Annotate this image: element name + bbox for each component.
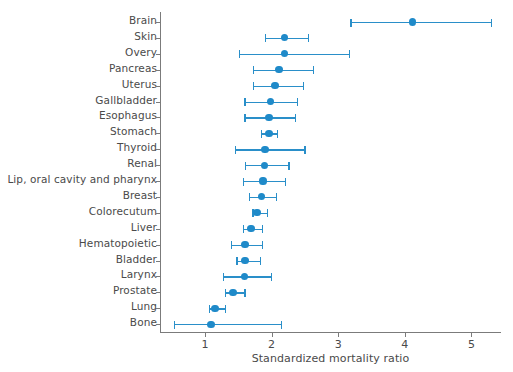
y-axis-label: Lip, oral cavity and pharynx: [7, 173, 157, 185]
data-point-marker: [261, 162, 268, 169]
ci-cap-upper: [267, 209, 268, 217]
ci-cap-upper: [244, 289, 245, 297]
y-axis-label: Bone: [130, 316, 157, 328]
y-axis-label: Liver: [131, 221, 157, 233]
ci-cap-lower: [265, 34, 266, 42]
data-point-marker: [211, 305, 218, 312]
y-axis-label: Esophagus: [99, 109, 157, 121]
y-axis-label: Hematopoietic: [79, 237, 157, 249]
x-axis-tick-label: 5: [456, 338, 486, 351]
ci-cap-lower: [235, 146, 236, 154]
x-axis-tick: [272, 332, 273, 337]
ci-cap-upper: [349, 50, 350, 58]
data-point-marker: [241, 241, 248, 248]
x-axis-tick: [205, 332, 206, 337]
data-point-marker: [261, 146, 268, 153]
confidence-interval-line: [235, 149, 304, 150]
y-axis-label: Stomach: [110, 125, 157, 137]
y-axis-label: Prostate: [113, 284, 157, 296]
ci-cap-lower: [231, 241, 232, 249]
forest-plot-figure: BrainSkinOveryPancreasUterusGallbladderE…: [0, 0, 513, 372]
ci-cap-lower: [243, 225, 244, 233]
y-axis-tick: [156, 149, 160, 150]
ci-cap-upper: [225, 305, 226, 313]
ci-cap-upper: [285, 178, 286, 186]
confidence-interval-line: [174, 324, 281, 325]
ci-cap-lower: [239, 50, 240, 58]
y-axis-label: Brain: [129, 14, 157, 26]
y-axis-tick: [156, 54, 160, 55]
y-axis-label: Uterus: [122, 78, 157, 90]
y-axis-label: Thyroid: [117, 141, 157, 153]
y-axis-tick: [156, 117, 160, 118]
data-point-marker: [207, 321, 214, 328]
y-axis-tick: [156, 261, 160, 262]
x-axis-tick-label: 1: [190, 338, 220, 351]
y-axis-tick: [156, 165, 160, 166]
ci-cap-lower: [253, 66, 254, 74]
x-axis-tick: [405, 332, 406, 337]
ci-cap-lower: [253, 82, 254, 90]
data-point-marker: [409, 18, 416, 25]
data-point-marker: [241, 273, 248, 280]
data-point-marker: [259, 177, 266, 184]
ci-cap-lower: [244, 114, 245, 122]
ci-cap-upper: [297, 98, 298, 106]
ci-cap-upper: [276, 193, 277, 201]
x-axis-tick-label: 3: [323, 338, 353, 351]
ci-cap-upper: [277, 130, 278, 138]
ci-cap-lower: [223, 273, 224, 281]
ci-cap-upper: [491, 19, 492, 27]
ci-cap-upper: [288, 162, 289, 170]
y-axis-label: Skin: [134, 30, 157, 42]
y-axis-tick: [156, 133, 160, 134]
y-axis-tick: [156, 245, 160, 246]
y-axis-tick: [156, 181, 160, 182]
data-point-marker: [253, 209, 260, 216]
y-axis-tick: [156, 197, 160, 198]
data-point-marker: [247, 225, 254, 232]
y-axis-tick: [156, 276, 160, 277]
y-axis-tick: [156, 86, 160, 87]
x-axis-tick-label: 4: [390, 338, 420, 351]
ci-cap-upper: [281, 321, 282, 329]
ci-cap-upper: [260, 257, 261, 265]
y-axis-tick: [156, 324, 160, 325]
data-point-marker: [267, 98, 274, 105]
ci-cap-upper: [295, 114, 296, 122]
data-point-marker: [265, 130, 272, 137]
ci-cap-lower: [245, 162, 246, 170]
confidence-interval-line: [350, 22, 491, 23]
x-axis-tick-label: 2: [257, 338, 287, 351]
ci-cap-upper: [271, 273, 272, 281]
ci-cap-lower: [243, 178, 244, 186]
confidence-interval-line: [239, 54, 349, 55]
y-axis-label: Bladder: [116, 253, 157, 265]
ci-cap-upper: [304, 146, 305, 154]
ci-cap-upper: [262, 225, 263, 233]
y-axis-label: Colorecutum: [89, 205, 157, 217]
data-point-marker: [229, 289, 236, 296]
y-axis-label: Breast: [123, 189, 157, 201]
ci-cap-upper: [262, 241, 263, 249]
x-axis-spine: [160, 332, 501, 333]
y-axis-tick: [156, 102, 160, 103]
y-axis-tick: [156, 22, 160, 23]
ci-cap-lower: [209, 305, 210, 313]
ci-cap-lower: [249, 193, 250, 201]
data-point-marker: [241, 257, 248, 264]
ci-cap-lower: [261, 130, 262, 138]
x-axis-tick: [338, 332, 339, 337]
ci-cap-upper: [303, 82, 304, 90]
ci-cap-upper: [313, 66, 314, 74]
ci-cap-lower: [244, 98, 245, 106]
confidence-interval-line: [253, 70, 313, 71]
data-point-marker: [265, 114, 272, 121]
y-axis-label: Lung: [131, 300, 157, 312]
data-point-marker: [281, 34, 288, 41]
data-point-marker: [258, 193, 265, 200]
y-axis-tick: [156, 70, 160, 71]
data-point-marker: [281, 50, 288, 57]
x-axis-tick: [471, 332, 472, 337]
y-axis-tick: [156, 292, 160, 293]
